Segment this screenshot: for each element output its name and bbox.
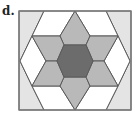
center-hexagon — [57, 45, 93, 77]
star-hexagon-diagram — [0, 0, 137, 117]
diagram-regions — [19, 11, 131, 110]
